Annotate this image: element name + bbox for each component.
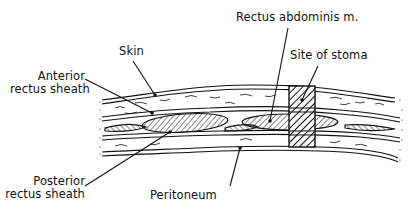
posterior-sheath-pointer: [85, 132, 170, 186]
left-cut-edge: [99, 101, 100, 154]
label-anterior-line2: rectus sheath: [10, 83, 85, 96]
skin-pointer: [133, 61, 155, 95]
peritoneum-pointer: [230, 148, 240, 186]
label-posterior-line2: rectus sheath: [5, 188, 85, 201]
right-cut-edge: [399, 99, 402, 160]
label-skin: Skin: [119, 45, 144, 58]
posterior-rectus-sheath: [102, 130, 400, 142]
label-rectus-abdominis: Rectus abdominis m.: [236, 11, 358, 24]
label-site-of-stoma: Site of stoma: [290, 49, 368, 62]
anterior-sheath-pointer: [85, 79, 152, 113]
preperitoneal-fat: [115, 139, 367, 147]
label-peritoneum: Peritoneum: [150, 189, 217, 202]
label-anterior-rectus-sheath: Anterior rectus sheath: [10, 70, 85, 96]
peritoneum-layer: [102, 146, 398, 162]
abdominal-wall-diagram: Skin Anterior rectus sheath Rectus abdom…: [0, 0, 413, 210]
label-posterior-rectus-sheath: Posterior rectus sheath: [5, 175, 85, 201]
